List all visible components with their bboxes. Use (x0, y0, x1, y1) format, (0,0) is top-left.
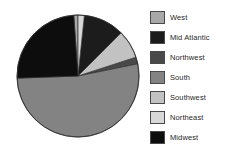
legend-item-midwest[interactable]: Midwest (150, 130, 198, 144)
pie-plot-area (0, 0, 148, 155)
legend-label: West (170, 13, 187, 22)
legend-item-northwest[interactable]: Northwest (150, 50, 205, 64)
legend-swatch-west (150, 11, 165, 24)
pie-chart-svg (0, 0, 148, 155)
legend-label: Southwest (170, 93, 206, 102)
legend-label: Mid Atlantic (170, 33, 210, 42)
legend-swatch-south (150, 71, 165, 84)
legend-item-southwest[interactable]: Southwest (150, 90, 206, 104)
pie-chart-figure: WestMid AtlanticNorthwestSouthSouthwestN… (0, 0, 225, 155)
pie-slice-midwest (17, 15, 78, 78)
pie-slice-group (17, 15, 139, 137)
legend-item-west[interactable]: West (150, 10, 187, 24)
legend-label: South (170, 73, 190, 82)
legend-swatch-northwest (150, 51, 165, 64)
legend-swatch-southwest (150, 91, 165, 104)
legend-item-mid-atlantic[interactable]: Mid Atlantic (150, 30, 210, 44)
legend-label: Midwest (170, 133, 198, 142)
legend-label: Northwest (170, 53, 205, 62)
legend-item-south[interactable]: South (150, 70, 190, 84)
legend-swatch-mid-atlantic (150, 31, 165, 44)
chart-legend: WestMid AtlanticNorthwestSouthSouthwestN… (148, 0, 225, 155)
legend-swatch-northeast (150, 111, 165, 124)
legend-item-northeast[interactable]: Northeast (150, 110, 203, 124)
legend-label: Northeast (170, 113, 203, 122)
legend-swatch-midwest (150, 131, 165, 144)
